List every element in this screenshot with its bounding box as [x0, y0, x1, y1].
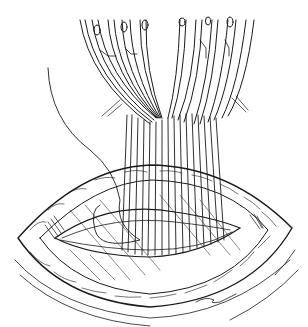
left-clamp-bundle [80, 20, 162, 124]
right-clamp-bundle [168, 17, 254, 124]
illustration-canvas [0, 0, 308, 327]
wound-opening [45, 195, 263, 280]
surgical-illustration [0, 0, 308, 327]
skin-contour-lines [15, 250, 298, 326]
suture-threads [122, 114, 224, 255]
